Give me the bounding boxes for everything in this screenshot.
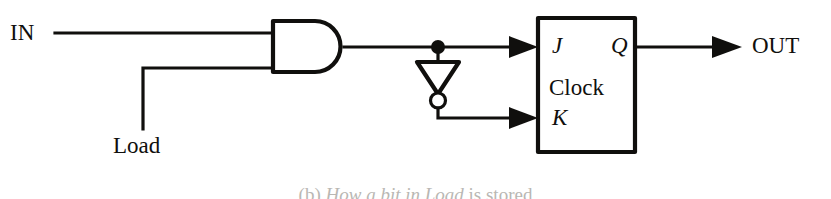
label-pin-clock: Clock: [549, 76, 604, 99]
circuit-schematic-canvas: [0, 0, 831, 199]
label-pin-q: Q: [611, 34, 628, 57]
inverter-bubble-icon: [431, 93, 446, 108]
label-out: OUT: [752, 34, 799, 57]
circuit-diagram-figure: IN Load J Q Clock K OUT (b) How a bit in…: [0, 0, 831, 199]
out-arrowhead-icon: [712, 36, 742, 58]
label-pin-j: J: [552, 34, 562, 57]
and-gate-body: [273, 21, 341, 72]
inverter-triangle: [417, 62, 459, 94]
caption-emphasis: How a bit in Load: [325, 184, 463, 199]
caption-suffix: is stored: [464, 184, 533, 199]
wire-load-to-and-gate: [143, 68, 274, 129]
caption-prefix: (b): [299, 184, 326, 199]
label-in: IN: [10, 21, 34, 44]
wire-inverter-to-k: [438, 108, 509, 118]
label-pin-k: K: [552, 106, 567, 129]
figure-caption: (b) How a bit in Load is stored: [0, 184, 831, 199]
j-input-arrowhead-icon: [509, 36, 538, 58]
k-input-arrowhead-icon: [509, 107, 538, 129]
label-load: Load: [113, 134, 160, 157]
